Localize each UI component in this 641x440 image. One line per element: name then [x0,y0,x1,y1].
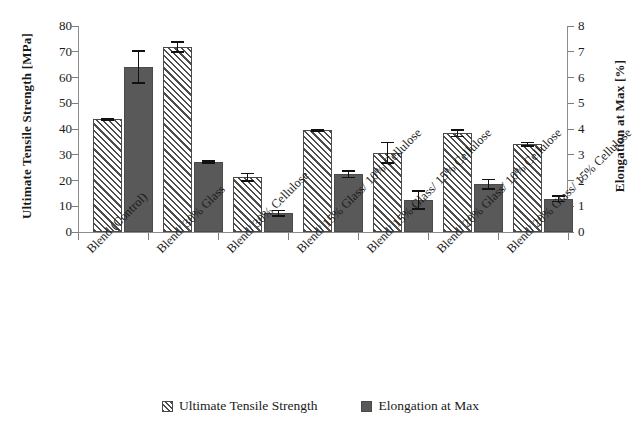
left-axis-title: Ultimate Tensile Strength [MPa] [19,11,35,241]
error-bar-elongation-0 [124,50,153,83]
right-axis-title: Elongation at Max [%] [612,11,628,241]
right-tickmark-8 [568,26,574,27]
x-tickmark-2 [218,233,219,240]
x-tickmark-3 [288,233,289,240]
error-bar-elongation-3 [334,170,363,178]
bar-uts-1 [163,47,192,232]
legend-label-uts: Ultimate Tensile Strength [179,398,317,414]
x-tickmark-1 [148,233,149,240]
right-tickmark-5 [568,103,574,104]
right-tickmark-3 [568,154,574,155]
left-tick-40: 40 [42,122,72,135]
error-bar-uts-0 [93,118,122,121]
right-tick-0: 0 [578,225,608,238]
right-tick-1: 1 [578,199,608,212]
left-tick-0: 0 [42,225,72,238]
left-tick-50: 50 [42,96,72,109]
error-bar-uts-2 [233,173,262,182]
right-tickmark-7 [568,51,574,52]
x-tickmark-6 [498,233,499,240]
legend-item-elongation[interactable]: Elongation at Max [361,398,478,414]
right-tick-8: 8 [578,19,608,32]
left-tick-80: 80 [42,19,72,32]
legend-item-uts[interactable]: Ultimate Tensile Strength [162,398,317,414]
x-tickmark-end [568,233,569,240]
chart-canvas: Ultimate Tensile Strength [MPa] Elongati… [0,0,641,440]
legend-label-elongation: Elongation at Max [378,398,478,414]
right-tickmark-4 [568,129,574,130]
x-tickmark-4 [358,233,359,240]
right-tick-6: 6 [578,71,608,84]
error-bar-uts-5 [443,129,472,137]
right-tick-5: 5 [578,96,608,109]
error-bar-uts-1 [163,41,192,52]
right-tickmark-6 [568,77,574,78]
hatched-swatch-icon [162,401,173,412]
right-tick-4: 4 [578,122,608,135]
left-tick-60: 60 [42,71,72,84]
solid-gray-swatch-icon [361,401,372,412]
x-tickmark-5 [428,233,429,240]
x-tickmark-0 [78,233,79,240]
error-bar-uts-3 [303,129,332,132]
error-bar-elongation-1 [194,160,223,164]
left-tick-30: 30 [42,148,72,161]
left-tick-10: 10 [42,199,72,212]
left-tick-20: 20 [42,174,72,187]
right-tick-7: 7 [578,45,608,58]
chart-legend: Ultimate Tensile Strength Elongation at … [0,398,641,414]
left-tick-70: 70 [42,45,72,58]
